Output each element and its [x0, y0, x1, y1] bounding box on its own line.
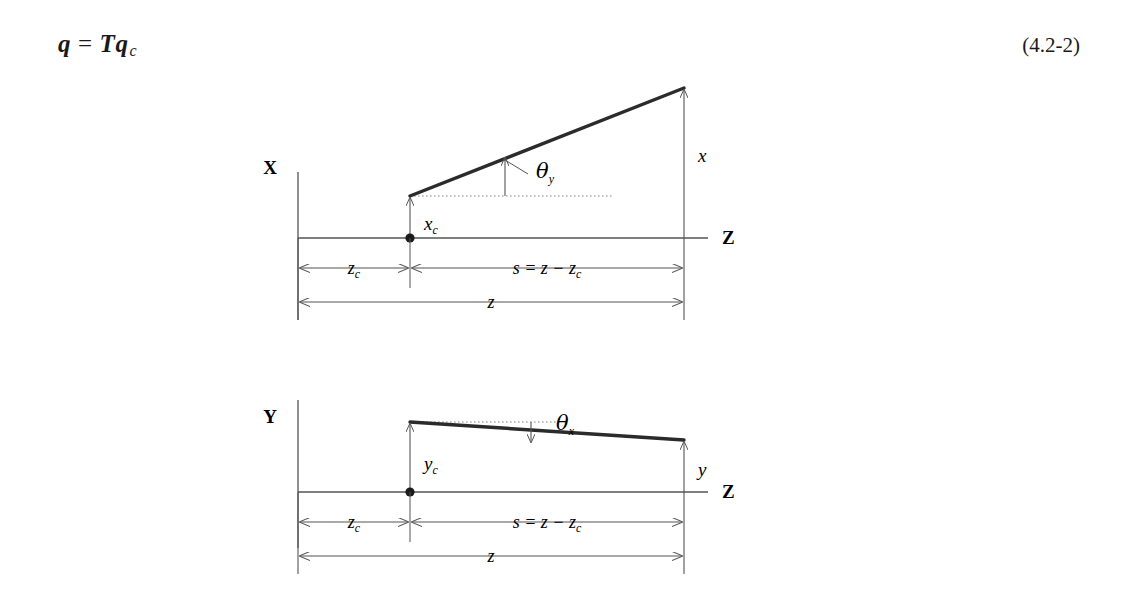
upper-angle-leader: [505, 160, 528, 174]
equation-rhs-matrix: T: [100, 30, 116, 57]
upper-diagram-xz: X Z θy xc x: [263, 88, 735, 320]
upper-dim-z-label: z: [486, 292, 494, 312]
lower-diagram-yz: Y Z θx yc y: [263, 400, 735, 574]
lower-dim-z-label: z: [486, 546, 494, 566]
upper-z-axis-label: Z: [722, 227, 735, 248]
upper-dim-zc-label: zc: [347, 258, 361, 281]
figure-canvas: X Z θy xc x: [0, 70, 1140, 590]
equation-rhs-vector: q: [115, 30, 128, 57]
equation-rhs-subscript: c: [128, 42, 137, 59]
lower-offset-label: yc: [422, 453, 438, 477]
equation-lhs: q: [58, 30, 71, 57]
equation-line: q=Tqc (4.2-2): [0, 30, 1140, 70]
lower-angle-label: θx: [556, 411, 575, 438]
upper-angle-label: θy: [536, 159, 555, 186]
upper-height-label: x: [697, 145, 707, 166]
lower-dim-s-label: s = z − zc: [513, 512, 582, 535]
lower-plane-label: Y: [263, 406, 277, 427]
lower-height-label: y: [696, 459, 707, 480]
upper-plane-label: X: [263, 157, 277, 178]
lower-z-axis-label: Z: [722, 481, 735, 502]
equation-number: (4.2-2): [1022, 33, 1080, 58]
ray-geometry-figure: X Z θy xc x: [0, 70, 1140, 590]
lower-dim-zc-label: zc: [347, 512, 361, 535]
lower-ray: [410, 422, 684, 440]
equation-relation: =: [71, 30, 100, 57]
upper-offset-label: xc: [423, 213, 438, 237]
textbook-page: q=Tqc (4.2-2): [0, 0, 1140, 595]
upper-dim-s-label: s = z − zc: [513, 258, 582, 281]
equation-expression: q=Tqc: [58, 30, 137, 60]
